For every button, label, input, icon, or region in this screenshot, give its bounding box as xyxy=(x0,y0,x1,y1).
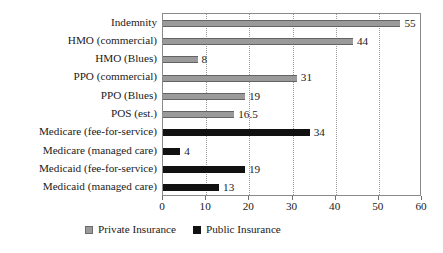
bar-value-label: 44 xyxy=(357,36,368,47)
bar-value-label: 31 xyxy=(301,72,312,83)
bar-value-label: 4 xyxy=(184,146,190,157)
bar-private xyxy=(163,20,400,27)
public-swatch-icon xyxy=(193,226,201,234)
plot-area: 55448311916.53441913 xyxy=(162,13,421,196)
category-label: HMO (commercial) xyxy=(0,35,157,46)
category-label: Medicaid (managed care) xyxy=(0,181,157,192)
bar-value-label: 19 xyxy=(249,91,260,102)
x-axis-tick-label: 10 xyxy=(190,201,220,212)
gridline xyxy=(379,14,380,195)
bar-private xyxy=(163,75,297,82)
category-label: Medicare (fee-for-service) xyxy=(0,126,157,137)
category-label: HMO (Blues) xyxy=(0,53,157,64)
chart-legend: Private InsurancePublic Insurance xyxy=(85,224,281,235)
x-axis-tick-label: 30 xyxy=(277,201,307,212)
x-axis: 0102030405060 xyxy=(162,196,421,218)
x-axis-tick-label: 0 xyxy=(147,201,177,212)
bar-private xyxy=(163,38,353,45)
legend-entry: Public Insurance xyxy=(193,224,281,235)
bar-private xyxy=(163,56,198,63)
category-axis: IndemnityHMO (commercial)HMO (Blues)PPO … xyxy=(0,13,160,196)
category-label: POS (est.) xyxy=(0,108,157,119)
bar-value-label: 19 xyxy=(249,164,260,175)
bar-private xyxy=(163,111,234,118)
horizontal-bar-chart: IndemnityHMO (commercial)HMO (Blues)PPO … xyxy=(0,0,443,253)
legend-label: Public Insurance xyxy=(206,224,281,235)
bar-value-label: 8 xyxy=(202,54,208,65)
bar-value-label: 16.5 xyxy=(238,109,258,120)
category-label: PPO (commercial) xyxy=(0,71,157,82)
legend-label: Private Insurance xyxy=(98,224,176,235)
bar-value-label: 13 xyxy=(223,182,234,193)
category-label: PPO (Blues) xyxy=(0,90,157,101)
category-label: Indemnity xyxy=(0,17,157,28)
category-label: Medicare (managed care) xyxy=(0,145,157,156)
bar-value-label: 34 xyxy=(314,127,325,138)
category-label: Medicaid (fee-for-service) xyxy=(0,163,157,174)
bar-public xyxy=(163,166,245,173)
x-axis-tick-label: 60 xyxy=(406,201,436,212)
x-axis-tick-label: 50 xyxy=(363,201,393,212)
bar-value-label: 55 xyxy=(404,18,415,29)
bar-public xyxy=(163,129,310,136)
legend-entry: Private Insurance xyxy=(85,224,176,235)
bar-public xyxy=(163,184,219,191)
bar-private xyxy=(163,93,245,100)
bar-public xyxy=(163,148,180,155)
x-axis-tick-label: 40 xyxy=(320,201,350,212)
private-swatch-icon xyxy=(85,226,93,234)
x-axis-tick-label: 20 xyxy=(233,201,263,212)
